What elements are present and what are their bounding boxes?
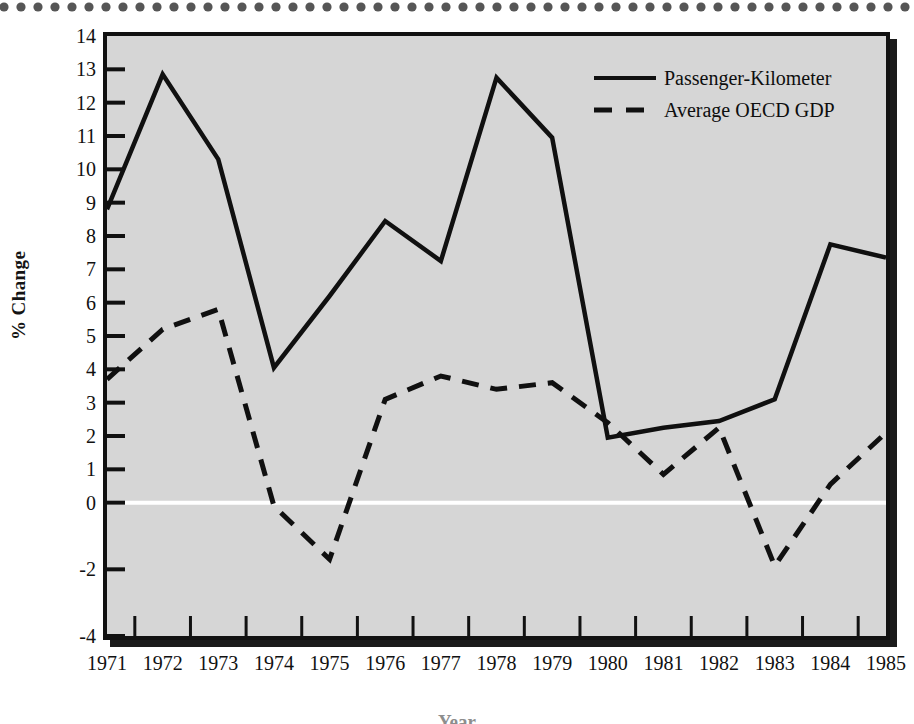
y-axis-tick-label: 2 [52,425,96,448]
y-axis-tick-label: 10 [52,158,96,181]
x-axis-tick-label: 1984 [810,652,850,675]
x-axis-title: Year [0,712,914,724]
x-axis-tick-label: 1973 [198,652,238,675]
legend-entry-average-oecd-gdp: Average OECD GDP [592,94,882,126]
y-axis-tick-label: 1 [52,458,96,481]
x-axis-tick-label: 1983 [755,652,795,675]
chart-legend: Passenger-Kilometer Average OECD GDP [592,62,882,126]
y-axis-tick-label: -4 [52,625,96,648]
y-axis-tick-labels: 14131211109876543210-2-4 [52,32,96,640]
y-axis-tick-label: 0 [52,491,96,514]
y-axis-tick-label: 11 [52,125,96,148]
legend-entry-passenger-kilometer: Passenger-Kilometer [592,62,882,94]
x-axis-tick-label: 1985 [866,652,906,675]
y-axis-tick-label: 12 [52,91,96,114]
dotted-border-decoration [0,0,914,16]
y-axis-tick-label: 14 [52,25,96,48]
y-axis-tick-label: 8 [52,225,96,248]
legend-label-average-oecd-gdp: Average OECD GDP [658,99,835,122]
dotted-border-svg [0,0,914,16]
x-axis-tick-marks [135,616,858,636]
x-axis-tick-label: 1972 [143,652,183,675]
y-axis-tick-label: 5 [52,325,96,348]
x-axis-tick-label: 1976 [365,652,405,675]
dashed-line-icon [592,101,658,119]
y-axis-tick-label: -2 [52,558,96,581]
x-axis-tick-label: 1981 [643,652,683,675]
y-axis-tick-label: 3 [52,391,96,414]
x-axis-tick-label: 1982 [699,652,739,675]
x-axis-tick-labels: 1971197219731974197519761977197819791980… [103,652,890,682]
y-axis-tick-marks [107,69,125,636]
x-axis-tick-label: 1979 [532,652,572,675]
solid-line-icon [592,69,658,87]
y-axis-tick-label: 13 [52,58,96,81]
y-axis-tick-label: 7 [52,258,96,281]
series-line-average-oecd-gdp [107,309,886,566]
x-axis-tick-label: 1974 [254,652,294,675]
chart-figure: % Change 14131211109876543210-2-4 Passen… [0,0,914,724]
series-line-passenger-kilometer [107,74,886,437]
y-axis-title: % Change [8,180,30,340]
x-axis-tick-label: 1975 [310,652,350,675]
legend-label-passenger-kilometer: Passenger-Kilometer [658,67,831,90]
x-axis-tick-label: 1977 [421,652,461,675]
x-axis-tick-label: 1980 [588,652,628,675]
y-axis-tick-label: 6 [52,291,96,314]
y-axis-tick-label: 9 [52,191,96,214]
plot-series-svg [107,36,886,636]
x-axis-tick-label: 1971 [87,652,127,675]
y-axis-tick-label: 4 [52,358,96,381]
x-axis-tick-label: 1978 [477,652,517,675]
